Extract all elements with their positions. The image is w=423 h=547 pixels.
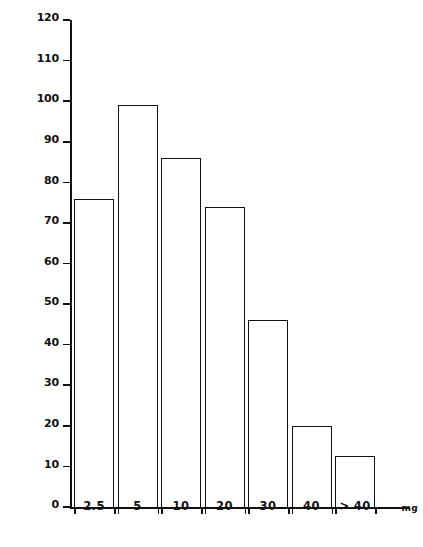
y-tick-60: 60: [63, 263, 70, 265]
y-tick-110: 110: [63, 60, 70, 62]
x-tick: [114, 507, 116, 514]
y-tick-label: 100: [37, 92, 59, 105]
y-tick-90: 90: [63, 141, 70, 143]
y-tick-40: 40: [63, 344, 70, 346]
bar: [118, 105, 158, 509]
x-tick: [288, 507, 290, 514]
y-tick-label: 20: [44, 417, 59, 430]
x-tick: [332, 507, 334, 514]
y-tick-30: 30: [63, 384, 70, 386]
y-tick-label: 10: [44, 458, 59, 471]
y-tick-80: 80: [63, 182, 70, 184]
y-tick-label: 80: [44, 174, 59, 187]
y-tick-10: 10: [63, 466, 70, 468]
y-tick-label: 0: [52, 498, 59, 511]
y-tick-70: 70: [63, 222, 70, 224]
y-tick-label: 120: [37, 11, 59, 24]
bar: [161, 158, 201, 509]
plot-area: 0102030405060708090100110120: [70, 20, 409, 509]
y-tick-label: 30: [44, 376, 59, 389]
x-axis-label: 40: [303, 499, 320, 513]
y-tick-label: 40: [44, 336, 59, 349]
bar-chart: Number of Patients 010203040506070809010…: [0, 0, 423, 547]
y-tick-label: 60: [44, 255, 59, 268]
x-tick: [375, 507, 377, 514]
bar: [205, 207, 245, 509]
x-axis-label: 10: [173, 499, 190, 513]
y-tick-label: 90: [44, 133, 59, 146]
y-tick-50: 50: [63, 303, 70, 305]
x-axis-label: 5: [133, 499, 141, 513]
x-axis-unit-label: mg: [402, 503, 418, 513]
y-tick-label: 110: [37, 52, 59, 65]
x-tick: [158, 507, 160, 514]
x-axis-label: 30: [260, 499, 277, 513]
y-tick-label: 70: [44, 214, 59, 227]
y-tick-20: 20: [63, 425, 70, 427]
y-tick-0: 0: [63, 506, 70, 508]
y-tick-120: 120: [63, 19, 70, 21]
x-axis-label: 20: [216, 499, 233, 513]
x-tick: [245, 507, 247, 514]
x-axis-label: > 40: [339, 499, 370, 513]
bar: [74, 199, 114, 509]
bar: [292, 426, 332, 509]
x-tick: [201, 507, 203, 514]
y-axis-line: [70, 20, 72, 509]
x-axis-label: 2.5: [83, 499, 105, 513]
y-tick-100: 100: [63, 100, 70, 102]
y-tick-label: 50: [44, 295, 59, 308]
bar: [248, 320, 288, 509]
